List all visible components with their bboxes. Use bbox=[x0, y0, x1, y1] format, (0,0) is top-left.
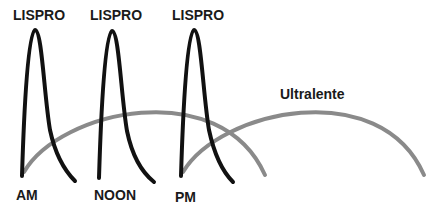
lispro-curve-noon bbox=[99, 31, 154, 182]
insulin-profile-diagram: LISPRO LISPRO LISPRO Ultralente AM NOON … bbox=[0, 0, 439, 212]
lispro-curve-am bbox=[22, 30, 75, 181]
lispro-label-am: LISPRO bbox=[13, 7, 65, 23]
time-label-am: AM bbox=[16, 187, 38, 203]
time-label-pm: PM bbox=[175, 189, 196, 205]
ultralente-curve-1 bbox=[24, 112, 265, 175]
ultralente-label: Ultralente bbox=[280, 86, 345, 102]
lispro-label-pm: LISPRO bbox=[172, 7, 224, 23]
lispro-label-noon: LISPRO bbox=[90, 7, 142, 23]
time-label-noon: NOON bbox=[94, 187, 136, 203]
lispro-curve-pm bbox=[181, 30, 233, 182]
